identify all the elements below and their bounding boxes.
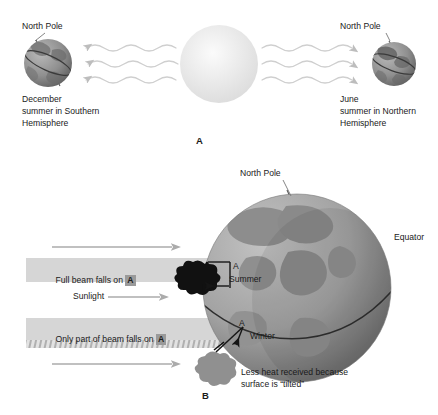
- label-full-beam-text: Full beam falls on: [56, 275, 126, 285]
- label-partial-beam-text: Only part of beam falls on: [56, 334, 156, 344]
- caption-less-heat-line2: surface is “tilted”: [241, 379, 304, 390]
- label-partial-beam-a-box: A: [156, 334, 166, 345]
- label-partial-beam: Only part of beam falls on A: [46, 323, 166, 356]
- north-pole-leader-b: [283, 180, 291, 196]
- panel-letter-b: B: [202, 390, 209, 402]
- caption-less-heat-line1: Less heat received because: [241, 367, 348, 378]
- figure-seasons-diagram: North Pole North Pole December summer in…: [0, 0, 438, 415]
- label-summer-a: A: [233, 261, 239, 272]
- label-north-pole-b: North Pole: [240, 168, 281, 179]
- label-winter: Winter: [250, 331, 275, 342]
- label-equator: Equator: [394, 232, 424, 243]
- label-summer: Summer: [229, 274, 261, 285]
- label-winter-a: A: [239, 318, 245, 329]
- label-sunlight: Sunlight: [73, 291, 104, 302]
- label-full-beam-a-box: A: [125, 275, 135, 286]
